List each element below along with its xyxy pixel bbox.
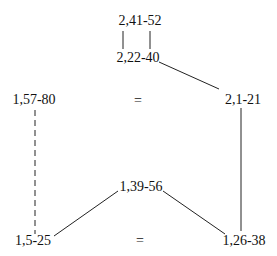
node-right-mid: 2,1-21 bbox=[225, 92, 261, 107]
node-upper-mid: 2,22-40 bbox=[116, 50, 159, 65]
equals-sign-middle: = bbox=[134, 93, 142, 108]
node-left-mid: 1,57-80 bbox=[12, 92, 55, 107]
edge-center-low-bottom-right bbox=[163, 191, 225, 234]
node-bottom-left: 1,5-25 bbox=[15, 233, 51, 248]
node-center-low: 1,39-56 bbox=[119, 179, 162, 194]
node-bottom-right: 1,26-38 bbox=[222, 233, 265, 248]
equals-sign-bottom: = bbox=[136, 233, 144, 248]
diagram-canvas: 2,41-52 2,22-40 1,57-80 = 2,1-21 1,39-56… bbox=[0, 0, 277, 256]
edge-center-low-bottom-left bbox=[54, 191, 118, 236]
edge-upper-mid-right-mid bbox=[159, 62, 219, 89]
diagram-svg: 2,41-52 2,22-40 1,57-80 = 2,1-21 1,39-56… bbox=[0, 0, 277, 256]
node-top: 2,41-52 bbox=[118, 13, 161, 28]
